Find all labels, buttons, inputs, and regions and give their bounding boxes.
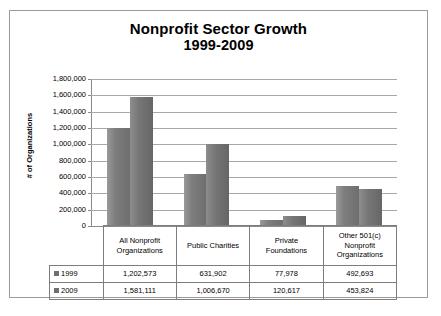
- table-row: 19991,202,573631,90277,978492,693: [50, 266, 397, 283]
- y-axis-tick-label: 200,000: [59, 206, 86, 214]
- bar-1999-2: [184, 174, 207, 226]
- y-axis-tick: [88, 177, 91, 178]
- chart-title: Nonprofit Sector Growth 1999-2009: [10, 20, 427, 54]
- value-cell-1999-4: 492,693: [323, 266, 396, 283]
- y-axis-tick: [88, 161, 91, 162]
- legend-label: 1999: [61, 269, 78, 278]
- y-axis-title: # of Organizations: [25, 86, 34, 206]
- value-cell-1999-2: 631,902: [176, 266, 249, 283]
- data-table-body: All NonprofitOrganizationsPublic Chariti…: [50, 226, 397, 300]
- bar-1999-1: [107, 128, 130, 226]
- y-axis-tick-label: 800,000: [59, 157, 86, 165]
- chart-frame: Nonprofit Sector Growth 1999-2009 # of O…: [9, 10, 428, 298]
- legend-label: 2009: [61, 286, 78, 295]
- y-axis-tick-label: 600,000: [59, 173, 86, 181]
- bar-group: [260, 79, 306, 226]
- y-axis-tick-label: 1,000,000: [53, 140, 86, 148]
- legend-item-1999[interactable]: 1999: [50, 266, 104, 283]
- legend-swatch-icon: [54, 288, 59, 293]
- chart-title-line-2: 1999-2009: [10, 37, 427, 54]
- category-header-2: Public Charities: [176, 226, 249, 266]
- table-row: 20091,581,1111,006,670120,617453,824: [50, 283, 397, 300]
- y-axis-tick-label: 1,400,000: [53, 108, 86, 116]
- bar-group: [184, 79, 230, 226]
- table-corner-cell: [50, 226, 104, 266]
- y-axis-tick: [88, 193, 91, 194]
- y-axis-tick-label: 400,000: [59, 189, 86, 197]
- y-axis-tick: [88, 79, 91, 80]
- bar-group: [336, 79, 382, 226]
- bar-group: [107, 79, 153, 226]
- category-header-4: Other 501(c)NonprofitOrganizations: [323, 226, 396, 266]
- value-cell-2009-4: 453,824: [323, 283, 396, 300]
- y-axis-tick: [88, 144, 91, 145]
- y-axis-tick-label: 1,800,000: [53, 75, 86, 83]
- category-header-line: Nonprofit: [326, 241, 394, 251]
- category-header-line: Foundations: [252, 246, 320, 256]
- bar-1999-4: [336, 186, 359, 226]
- category-header-line: Organizations: [326, 250, 394, 260]
- value-cell-1999-1: 1,202,573: [103, 266, 176, 283]
- y-axis-tick-label: 1,600,000: [53, 91, 86, 99]
- category-header-3: PrivateFoundations: [250, 226, 323, 266]
- y-axis-line: [91, 79, 92, 226]
- value-cell-2009-3: 120,617: [250, 283, 323, 300]
- data-table: All NonprofitOrganizationsPublic Chariti…: [49, 225, 397, 300]
- bar-2009-1: [130, 97, 153, 226]
- bar-2009-2: [206, 144, 229, 226]
- value-cell-2009-2: 1,006,670: [176, 283, 249, 300]
- bar-2009-4: [359, 189, 382, 226]
- category-header-line: Organizations: [106, 246, 174, 256]
- category-header-line: All Nonprofit: [106, 236, 174, 246]
- table-header-row: All NonprofitOrganizationsPublic Chariti…: [50, 226, 397, 266]
- legend-item-2009[interactable]: 2009: [50, 283, 104, 300]
- value-cell-2009-1: 1,581,111: [103, 283, 176, 300]
- category-header-line: Other 501(c): [326, 231, 394, 241]
- chart-title-line-1: Nonprofit Sector Growth: [130, 20, 307, 37]
- legend-swatch-icon: [54, 271, 59, 276]
- category-header-line: Public Charities: [179, 241, 247, 251]
- category-header-1: All NonprofitOrganizations: [103, 226, 176, 266]
- plot-area: 1,800,0001,600,0001,400,0001,200,0001,00…: [91, 79, 397, 226]
- y-axis-tick: [88, 112, 91, 113]
- category-header-line: Private: [252, 236, 320, 246]
- y-axis-tick-label: 1,200,000: [53, 124, 86, 132]
- y-axis-tick: [88, 95, 91, 96]
- y-axis-tick: [88, 210, 91, 211]
- value-cell-1999-3: 77,978: [250, 266, 323, 283]
- y-axis-tick: [88, 128, 91, 129]
